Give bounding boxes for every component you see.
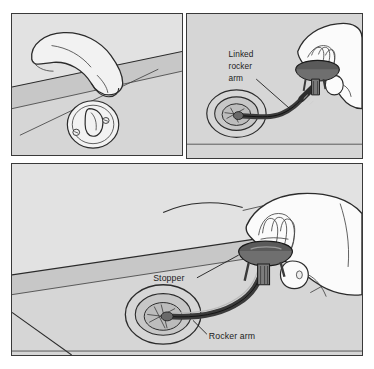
tub-spout-drawing: [12, 14, 182, 155]
callout-stopper-label: Stopper: [153, 273, 184, 283]
tub-spout-overflow-panel: [11, 13, 183, 156]
illustration-figure: Linked rocker arm: [0, 0, 374, 369]
callout-line-3: arm: [229, 73, 244, 83]
callout-rocker-arm-label: Rocker arm: [209, 331, 255, 341]
linked-rocker-arm-drawing: Linked rocker arm: [187, 14, 362, 158]
thumbnail: [296, 271, 302, 279]
rocker-arm-pivot-main: [161, 312, 173, 321]
callout-line-1: Linked: [229, 49, 254, 59]
rocker-arm-pivot: [233, 112, 243, 120]
linked-rocker-arm-inset-panel: Linked rocker arm: [186, 13, 363, 159]
callout-line-2: rocker: [229, 61, 253, 71]
stopper-removal-drawing: Stopper Rocker arm: [12, 164, 362, 355]
overflow-plate: [67, 101, 118, 148]
stopper-stem: [312, 79, 320, 95]
stopper-removal-panel: Stopper Rocker arm: [11, 163, 363, 356]
